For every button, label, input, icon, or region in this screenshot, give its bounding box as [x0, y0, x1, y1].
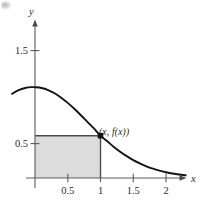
y-axis-label: y — [29, 7, 34, 18]
plot-canvas — [0, 0, 203, 203]
x-tick-label-0.5: 0.5 — [61, 186, 74, 197]
x-tick-label-1.5: 1.5 — [127, 186, 140, 197]
point-annotation-label: (x, f(x)) — [99, 128, 129, 138]
y-tick-label-1.5: 1.5 — [0, 45, 28, 56]
x-tick-label-2: 2 — [163, 186, 168, 197]
calculus-figure: y x 1.5 0.5 0.5 1 1.5 2 (x, f(x)) — [0, 0, 203, 203]
y-tick-label-0.5: 0.5 — [0, 138, 28, 149]
x-axis-label: x — [191, 174, 196, 185]
inscribed-rectangle — [35, 136, 101, 178]
x-tick-label-1: 1 — [98, 186, 103, 197]
